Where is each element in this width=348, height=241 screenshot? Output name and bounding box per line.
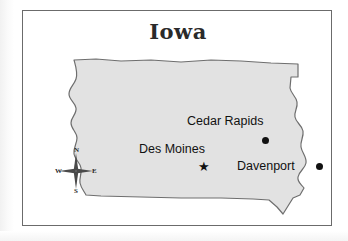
city-label-cedar-rapids: Cedar Rapids	[187, 114, 263, 128]
map-frame: Iowa ★ Cedar Rapids Des Moines Davenport…	[22, 10, 332, 226]
city-marker-davenport[interactable]	[316, 163, 323, 170]
scan-edge-left	[0, 0, 14, 241]
page-title: Iowa	[23, 19, 333, 44]
compass-rose: N E S W	[53, 147, 99, 195]
compass-label-north: N	[74, 147, 79, 154]
compass-label-south: S	[74, 188, 78, 195]
capital-marker-des-moines[interactable]: ★	[197, 160, 210, 173]
map-screenshot: Iowa ★ Cedar Rapids Des Moines Davenport…	[0, 0, 348, 241]
city-label-davenport: Davenport	[237, 159, 295, 173]
compass-label-east: E	[92, 168, 97, 175]
city-label-des-moines: Des Moines	[139, 142, 205, 156]
city-marker-cedar-rapids[interactable]	[262, 137, 269, 144]
compass-label-west: W	[55, 168, 62, 175]
scan-edge-bottom	[0, 231, 348, 241]
